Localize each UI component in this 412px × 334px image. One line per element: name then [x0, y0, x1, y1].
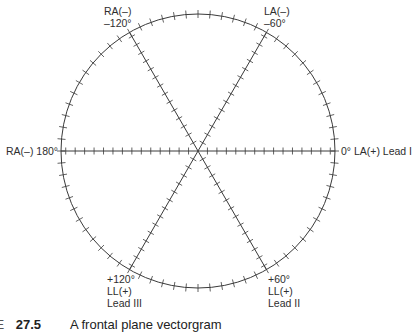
label-line: LA(–): [264, 5, 290, 17]
caption-number: 27.5: [16, 317, 41, 332]
label-ll-plus-60-lead-ii: +60° LL(+) Lead II: [268, 273, 300, 309]
caption-text: A frontal plane vectorgram: [70, 317, 222, 332]
label-la-0-lead-i: 0° LA(+) Lead I: [341, 145, 412, 157]
label-ra-minus-120: RA(–) –120°: [104, 5, 132, 29]
label-line: +120°: [107, 273, 142, 285]
label-line: Lead II: [268, 297, 300, 309]
label-line: –60°: [264, 17, 290, 29]
label-line: RA(–): [104, 5, 132, 17]
caption-prefix: RE: [0, 317, 4, 332]
label-line: –120°: [104, 17, 132, 29]
label-ll-plus-120-lead-iii: +120° LL(+) Lead III: [107, 273, 142, 309]
lead-axes: [61, 32, 335, 269]
label-line: LL(+): [107, 285, 142, 297]
label-line: Lead III: [107, 297, 142, 309]
figure-caption: RE 27.5 A frontal plane vectorgram: [0, 317, 222, 332]
label-line: +60°: [268, 273, 300, 285]
label-ra-180: RA(–) 180°: [6, 145, 58, 157]
label-line: LL(+): [268, 285, 300, 297]
label-la-minus-60: LA(–) –60°: [264, 5, 290, 29]
